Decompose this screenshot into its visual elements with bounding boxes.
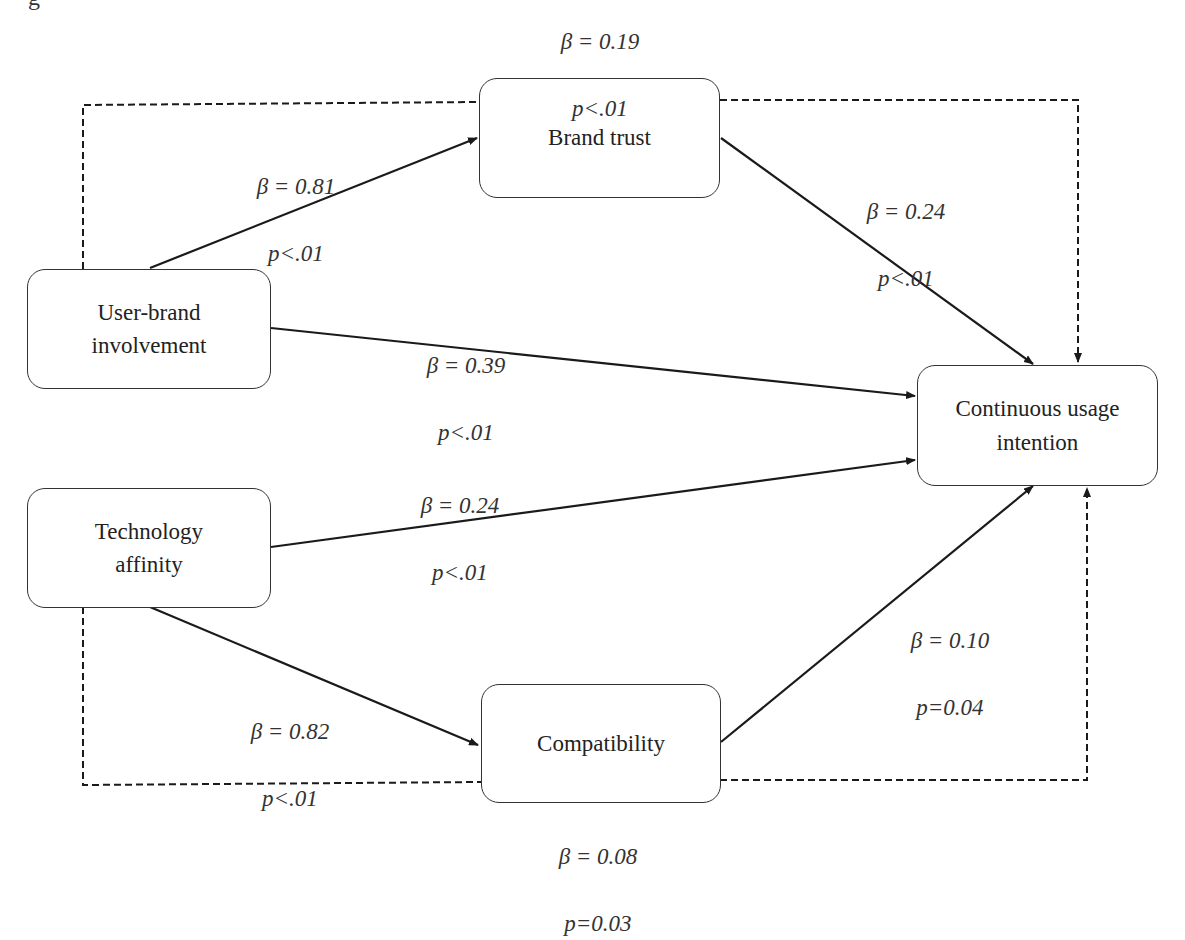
beta-value: β = 0.08 — [559, 844, 638, 869]
p-value: p<.01 — [262, 786, 318, 811]
beta-value: β = 0.81 — [257, 174, 336, 199]
node-user-brand-involvement: User-brand involvement — [27, 269, 271, 389]
beta-value: β = 0.19 — [561, 29, 640, 54]
node-label: User-brand involvement — [92, 296, 207, 363]
node-technology-affinity: Technology affinity — [27, 488, 271, 608]
p-value: p<.01 — [432, 560, 488, 585]
beta-value: β = 0.24 — [421, 493, 500, 518]
node-label: Compatibility — [537, 727, 665, 760]
coef-ubi-to-bt: β = 0.81 p<.01 — [257, 137, 336, 270]
coef-ta-to-comp: β = 0.82 p<.01 — [251, 682, 330, 815]
coef-bt-to-cui: β = 0.24 p<.01 — [867, 162, 946, 295]
p-value: p<.01 — [438, 420, 494, 445]
coef-indirect-ubi-via-bt: β = 0.19 p<.01 — [561, 0, 640, 125]
p-value: p=0.04 — [916, 695, 983, 720]
p-value: p<.01 — [268, 241, 324, 266]
node-label: Technology affinity — [95, 515, 203, 582]
beta-value: β = 0.39 — [427, 353, 506, 378]
node-compatibility: Compatibility — [481, 684, 721, 803]
node-continuous-usage-intention: Continuous usage intention — [917, 365, 1158, 486]
arrow-ubi-to-cui — [271, 328, 915, 396]
coef-comp-to-cui: β = 0.10 p=0.04 — [911, 591, 990, 724]
beta-value: β = 0.24 — [867, 199, 946, 224]
p-value: p<.01 — [572, 96, 628, 121]
node-label: Brand trust — [548, 121, 651, 154]
node-label: Continuous usage intention — [955, 392, 1119, 459]
beta-value: β = 0.82 — [251, 719, 330, 744]
coef-ubi-to-cui: β = 0.39 p<.01 — [427, 316, 506, 449]
arrow-ta-to-cui — [271, 460, 915, 547]
beta-value: β = 0.10 — [911, 628, 990, 653]
coef-ta-to-cui: β = 0.24 p<.01 — [421, 456, 500, 589]
coef-indirect-ta-via-comp: β = 0.08 p=0.03 — [559, 807, 638, 940]
indirect-path-bottom-right — [720, 488, 1087, 780]
p-value: p<.01 — [878, 266, 934, 291]
p-value: p=0.03 — [564, 911, 631, 936]
